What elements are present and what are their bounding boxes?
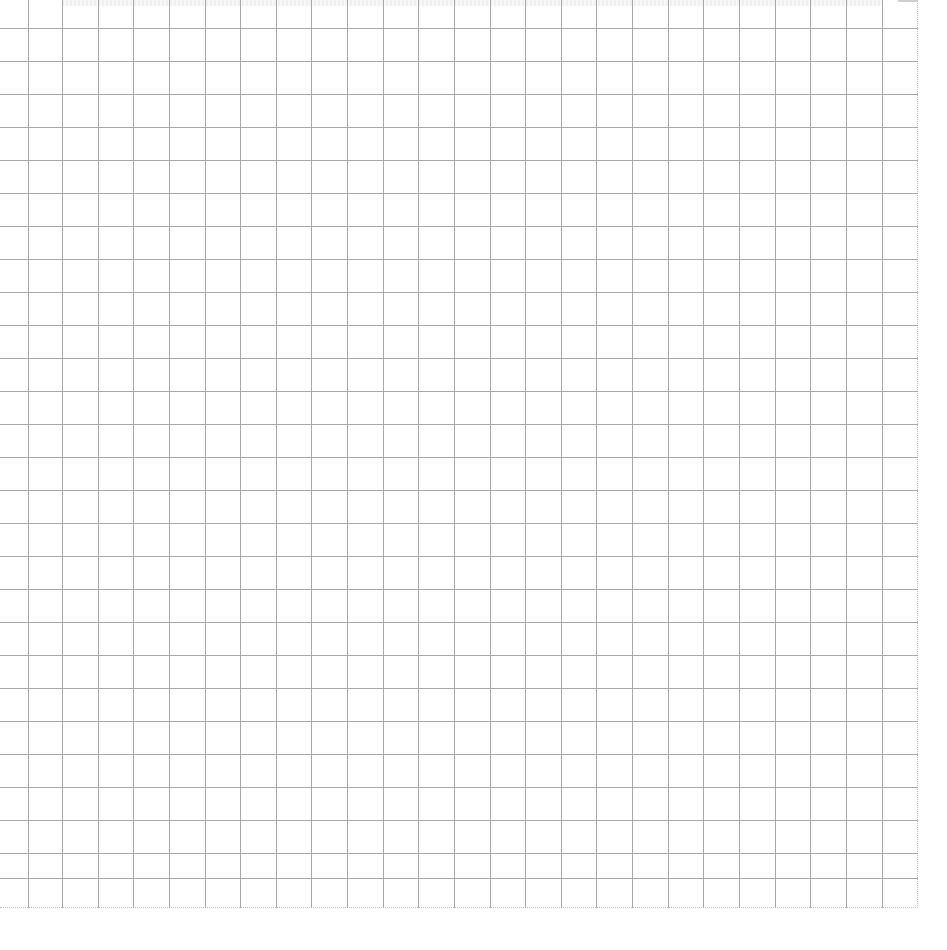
grid-paper-sheet bbox=[0, 0, 918, 908]
grid-vertical-line bbox=[418, 0, 419, 908]
grid-vertical-line bbox=[169, 0, 170, 908]
grid-horizontal-line bbox=[0, 259, 918, 260]
grid-horizontal-line bbox=[0, 28, 918, 29]
grid-horizontal-line bbox=[0, 391, 918, 392]
grid-vertical-line bbox=[276, 0, 277, 908]
grid-horizontal-line bbox=[0, 820, 918, 821]
grid-vertical-line bbox=[311, 0, 312, 908]
grid-vertical-line bbox=[454, 0, 455, 908]
grid-horizontal-line bbox=[0, 688, 918, 689]
grid-vertical-line bbox=[596, 0, 597, 908]
grid-vertical-line bbox=[739, 0, 740, 908]
grid-vertical-line bbox=[347, 0, 348, 908]
grid-horizontal-line bbox=[0, 358, 918, 359]
grid-horizontal-line bbox=[0, 61, 918, 62]
grid-horizontal-line bbox=[0, 523, 918, 524]
grid-horizontal-line bbox=[0, 424, 918, 425]
grid-horizontal-line bbox=[0, 325, 918, 326]
grid-horizontal-line bbox=[0, 490, 918, 491]
grid-vertical-line bbox=[810, 0, 811, 908]
grid-horizontal-line bbox=[0, 787, 918, 788]
grid-vertical-line bbox=[205, 0, 206, 908]
grid-vertical-line bbox=[98, 0, 99, 908]
grid-vertical-line bbox=[240, 0, 241, 908]
grid-horizontal-line bbox=[0, 457, 918, 458]
grid-horizontal-line bbox=[0, 556, 918, 557]
grid-horizontal-line bbox=[0, 878, 918, 879]
grid-horizontal-line bbox=[0, 127, 918, 128]
grid-horizontal-line bbox=[0, 721, 918, 722]
scan-top-edge bbox=[62, 0, 882, 6]
grid-horizontal-line bbox=[0, 754, 918, 755]
grid-horizontal-line bbox=[0, 589, 918, 590]
grid-horizontal-line bbox=[0, 193, 918, 194]
grid-vertical-line bbox=[383, 0, 384, 908]
grid-vertical-line bbox=[133, 0, 134, 908]
grid-vertical-line bbox=[668, 0, 669, 908]
grid-horizontal-line bbox=[0, 853, 918, 854]
grid-vertical-line bbox=[490, 0, 491, 908]
grid-vertical-line bbox=[28, 0, 29, 908]
grid-vertical-line bbox=[775, 0, 776, 908]
grid-vertical-line bbox=[846, 0, 847, 908]
grid-vertical-line bbox=[632, 0, 633, 908]
grid-vertical-line bbox=[561, 0, 562, 908]
grid-horizontal-line bbox=[0, 226, 918, 227]
grid-horizontal-line bbox=[0, 94, 918, 95]
grid-vertical-line bbox=[882, 0, 883, 908]
grid-vertical-line bbox=[62, 0, 63, 908]
grid-horizontal-line bbox=[0, 655, 918, 656]
grid-vertical-line bbox=[703, 0, 704, 908]
corner-mark bbox=[898, 0, 918, 2]
grid-horizontal-line bbox=[0, 160, 918, 161]
grid-horizontal-line bbox=[0, 622, 918, 623]
grid-horizontal-line bbox=[0, 292, 918, 293]
grid-vertical-line bbox=[525, 0, 526, 908]
